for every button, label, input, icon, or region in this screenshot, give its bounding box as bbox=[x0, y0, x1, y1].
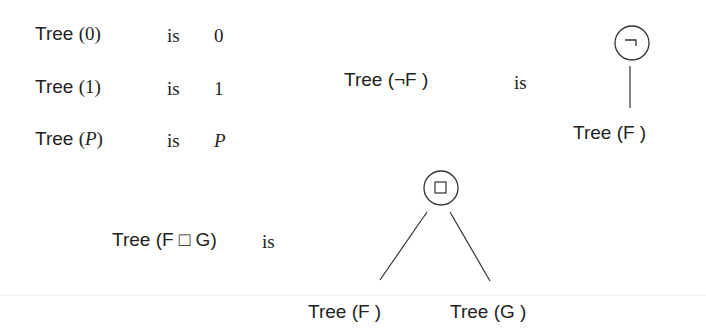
left-edge bbox=[380, 212, 427, 280]
negation-icon bbox=[625, 40, 636, 46]
tree-diagrams bbox=[0, 0, 706, 331]
binary-node bbox=[380, 171, 490, 281]
binary-node-circle bbox=[424, 171, 458, 205]
neg-node bbox=[615, 26, 649, 108]
neg-node-circle bbox=[615, 26, 649, 60]
right-edge bbox=[450, 212, 490, 281]
box-operator-icon bbox=[435, 182, 446, 193]
